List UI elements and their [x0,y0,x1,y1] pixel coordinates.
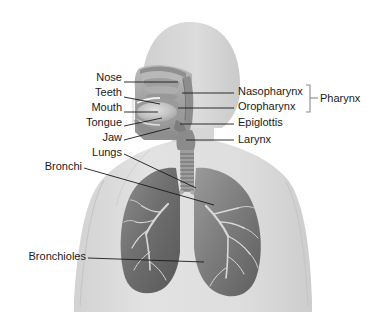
label-lungs: Lungs [8,147,122,158]
respiratory-system-diagram: Nose Teeth Mouth Tongue Jaw Lungs Bronch… [0,0,382,324]
label-tongue: Tongue [8,117,122,128]
label-nasopharynx: Nasopharynx [238,86,303,97]
label-bronchioles: Bronchioles [0,251,86,262]
head-section [133,65,193,140]
label-epiglottis: Epiglottis [238,117,283,128]
label-pharynx-group: Pharynx [320,93,360,104]
label-jaw: Jaw [8,132,122,143]
pharynx-bracket [306,85,318,112]
label-teeth: Teeth [8,87,122,98]
label-mouth: Mouth [8,102,122,113]
label-nose: Nose [8,72,122,83]
label-bronchi: Bronchi [0,161,82,172]
label-oropharynx: Oropharynx [238,101,295,112]
label-larynx: Larynx [238,134,271,145]
